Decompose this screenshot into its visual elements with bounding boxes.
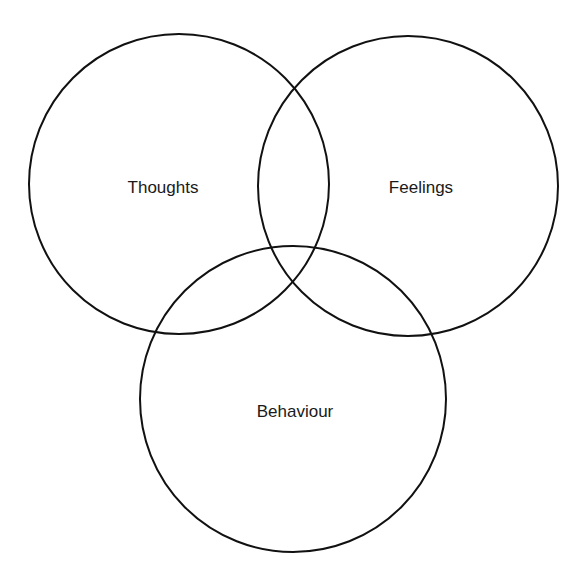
label-behaviour: Behaviour: [257, 402, 334, 421]
label-feelings: Feelings: [389, 178, 453, 197]
label-thoughts: Thoughts: [128, 178, 199, 197]
venn-diagram: Thoughts Feelings Behaviour: [0, 0, 579, 575]
circle-behaviour: [140, 246, 446, 552]
